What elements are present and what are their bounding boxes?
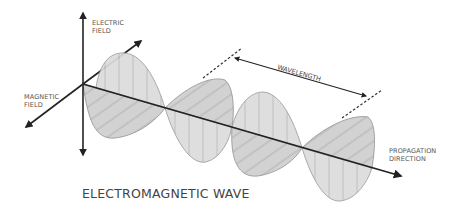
propagation-direction-label-line1: PROPAGATION: [389, 147, 436, 155]
propagation-direction-label-line2: DIRECTION: [389, 155, 436, 163]
electric-field-label-line1: ELECTRIC: [92, 19, 124, 27]
diagram-title: ELECTROMAGNETIC WAVE: [82, 186, 250, 201]
electric-field-label-line2: FIELD: [92, 27, 124, 35]
magnetic-field-label: MAGNETIC FIELD: [24, 93, 59, 109]
magnetic-field-label-line2: FIELD: [24, 101, 59, 109]
wavelength-tick-right: [342, 90, 382, 118]
propagation-direction-label: PROPAGATION DIRECTION: [389, 147, 436, 163]
wavelength-tick-left: [203, 48, 242, 78]
electric-field-label: ELECTRIC FIELD: [92, 19, 124, 35]
wavelength-label: WAVELENGTH: [276, 63, 321, 83]
magnetic-field-label-line1: MAGNETIC: [24, 93, 59, 101]
